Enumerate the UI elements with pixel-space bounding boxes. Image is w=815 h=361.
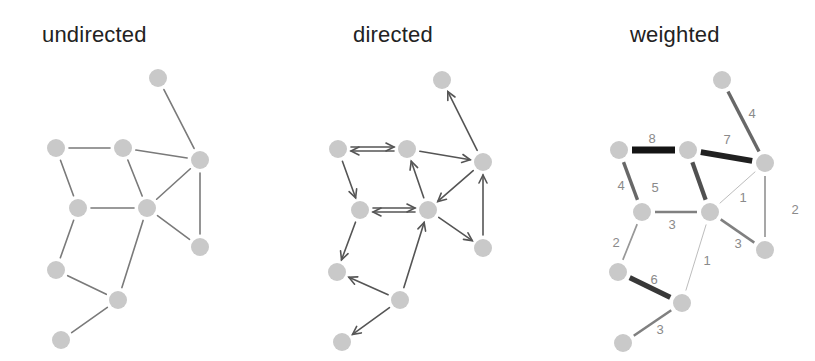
edge-weight-label: 4 (617, 178, 624, 193)
directed-edge (438, 171, 473, 202)
graph-node (701, 203, 719, 221)
graph-node (713, 71, 731, 89)
graph-node (329, 140, 347, 158)
graph-edge (157, 216, 189, 240)
graph-edge (60, 220, 73, 257)
directed-graph (328, 71, 492, 351)
graph-node (109, 291, 127, 309)
weighted-edge (623, 224, 637, 260)
graph-node (614, 334, 632, 352)
weighted-edge (701, 152, 752, 161)
edge-weight-label: 3 (656, 322, 663, 337)
weighted-edge (624, 162, 638, 200)
undirected-graph (47, 69, 209, 349)
graph-edge (157, 169, 191, 200)
graph-node (52, 331, 70, 349)
graph-node (610, 141, 628, 159)
graph-node (149, 69, 167, 87)
graph-node (47, 261, 65, 279)
directed-edge (404, 222, 424, 287)
graph-edge (72, 307, 108, 332)
graph-node (328, 263, 346, 281)
weighted-edge (720, 172, 756, 204)
edge-weight-label: 4 (748, 106, 755, 121)
graph-node (398, 140, 416, 158)
graph-node (673, 294, 691, 312)
graph-node (679, 141, 697, 159)
graph-node (756, 241, 774, 259)
graph-node (191, 238, 209, 256)
edge-weight-label: 8 (648, 131, 655, 146)
weighted-graph: 4874512332163 (609, 71, 799, 352)
edge-weight-label: 7 (723, 132, 730, 147)
graph-node (191, 151, 209, 169)
edge-weight-label: 3 (734, 236, 741, 251)
directed-edge (439, 217, 473, 240)
graph-edge (136, 150, 187, 158)
directed-edge (353, 308, 390, 335)
graph-node (474, 239, 492, 257)
graph-node (114, 139, 132, 157)
graph-edge (122, 220, 143, 287)
edge-weight-label: 6 (650, 272, 657, 287)
graph-node (333, 333, 351, 351)
directed-edge (420, 151, 470, 160)
graph-node (69, 199, 87, 217)
directed-edge (448, 92, 477, 151)
graph-edge (128, 160, 142, 196)
graph-node (609, 263, 627, 281)
weighted-edge (728, 92, 759, 152)
graph-node (433, 71, 451, 89)
graph-node (47, 139, 65, 157)
edge-weight-label: 3 (668, 217, 675, 232)
graph-edge (60, 160, 73, 196)
graph-node (138, 199, 156, 217)
weighted-edge (692, 162, 705, 199)
graph-node (351, 201, 369, 219)
graph-node (419, 201, 437, 219)
directed-edge (349, 277, 388, 294)
edge-weight-label: 1 (739, 190, 746, 205)
graph-node (474, 153, 492, 171)
graph-edge (164, 90, 194, 149)
edge-weight-label: 1 (703, 253, 710, 268)
edge-weight-label: 2 (612, 235, 619, 250)
weighted-edge (634, 310, 671, 335)
edge-weight-label: 5 (651, 180, 658, 195)
graph-node (756, 154, 774, 172)
graph-diagram-canvas: 4874512332163 (0, 0, 815, 361)
graph-node (633, 203, 651, 221)
edge-weight-label: 2 (791, 202, 798, 217)
graph-edge (68, 276, 107, 295)
graph-node (391, 291, 409, 309)
